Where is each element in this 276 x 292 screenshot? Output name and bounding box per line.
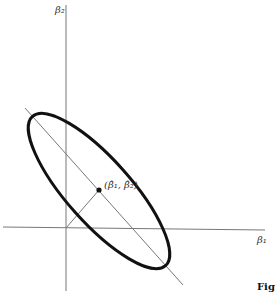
y-axis-label: β₂ (55, 5, 65, 15)
center-point-label: (β̂₁, β̂₂) (104, 180, 138, 190)
figure-caption: Fig (257, 281, 275, 292)
x-axis-label: β₁ (257, 235, 267, 245)
center-point (96, 187, 101, 192)
major-axis-line (25, 108, 183, 285)
